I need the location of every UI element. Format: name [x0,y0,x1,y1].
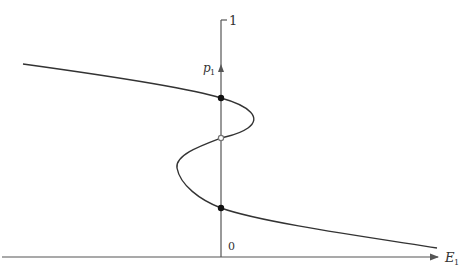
origin-label: 0 [228,240,235,253]
y-axis-top-tick-label: 1 [229,13,237,28]
y-axis-arrowhead [218,64,224,72]
s-curve [23,64,437,248]
middle-equilibrium-point [218,135,223,140]
upper-equilibrium-point [218,95,224,101]
y-axis-label-subscript: 1 [210,68,215,77]
lower-equilibrium-point [218,205,224,211]
diagram-canvas: 1 p 1 0 E 1 [0,0,470,275]
x-axis-label-subscript: 1 [454,258,459,267]
diagram-svg: 1 p 1 0 E 1 [0,0,470,275]
